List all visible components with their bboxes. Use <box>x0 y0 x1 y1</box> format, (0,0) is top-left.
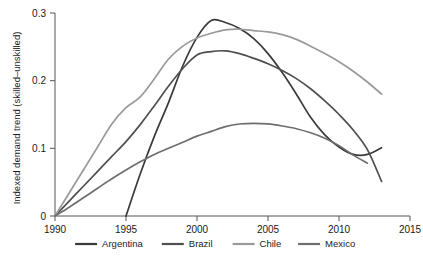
y-tick-label: 0 <box>40 211 46 222</box>
y-axis-label-text: Indexed demand trend (skilled–unskilled) <box>11 32 22 205</box>
y-tick-label: 0.2 <box>32 75 46 86</box>
axes <box>55 13 410 216</box>
series-line-chile <box>55 29 382 216</box>
y-tick-label: 0.3 <box>32 8 46 19</box>
legend-label-brazil: Brazil <box>189 238 213 249</box>
x-tick-label: 2015 <box>399 224 422 235</box>
legend-label-chile: Chile <box>260 238 282 249</box>
series-line-brazil <box>55 51 382 216</box>
legend-label-argentina: Argentina <box>102 238 143 249</box>
y-tick-label: 0.1 <box>32 143 46 154</box>
x-tick-label: 1990 <box>44 224 67 235</box>
series-line-mexico <box>55 123 367 216</box>
x-axis-ticks: 199019952000200520102015 <box>44 216 422 235</box>
x-tick-label: 1995 <box>115 224 138 235</box>
chart-legend: ArgentinaBrazilChileMexico <box>75 238 355 249</box>
line-chart: Indexed demand trend (skilled–unskilled)… <box>0 0 423 268</box>
x-tick-label: 2000 <box>186 224 209 235</box>
legend-label-mexico: Mexico <box>325 238 355 249</box>
y-axis-ticks: 00.10.20.3 <box>32 8 55 222</box>
series-lines <box>55 20 382 216</box>
x-tick-label: 2010 <box>328 224 351 235</box>
x-tick-label: 2005 <box>257 224 280 235</box>
y-axis-label: Indexed demand trend (skilled–unskilled) <box>11 32 22 205</box>
chart-container: Indexed demand trend (skilled–unskilled)… <box>0 0 423 268</box>
